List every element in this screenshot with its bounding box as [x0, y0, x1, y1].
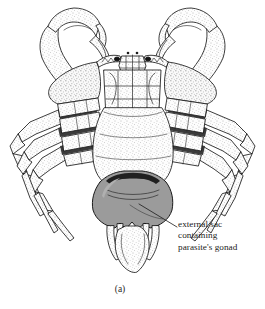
crab-illustration: [0, 0, 265, 309]
annotation-line-3: parasite's gonad: [178, 242, 264, 253]
crab-maxillipeds: [104, 70, 161, 110]
annotation-line-2: containing: [178, 230, 264, 241]
crab-abdomen-telson: [107, 224, 159, 273]
parasite-external-sac: [92, 171, 172, 229]
annotation-line-1: external sac: [178, 219, 264, 230]
parasite-sac-annotation: external sac containing parasite's gonad: [178, 219, 264, 253]
figure-caption: (a): [0, 284, 240, 294]
figure-container: external sac containing parasite's gonad…: [0, 0, 265, 309]
